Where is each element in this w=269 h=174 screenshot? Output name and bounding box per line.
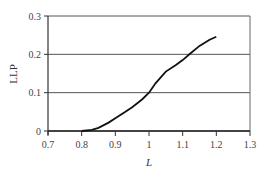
- x-tick-labels: 0.70.80.911.11.21.3: [42, 139, 257, 150]
- x-tick-label: 1: [147, 139, 152, 150]
- gridlines: [48, 16, 250, 131]
- y-tick-label: 0.1: [29, 87, 42, 98]
- llp-curve: [82, 37, 217, 131]
- y-tick-label: 0.3: [29, 11, 42, 22]
- x-tick-label: 1.3: [244, 139, 257, 150]
- y-tick-label: 0.2: [29, 49, 42, 60]
- y-axis-label: LLP: [7, 64, 19, 84]
- x-tick-label: 1.2: [210, 139, 223, 150]
- llp-chart: 0.70.80.911.11.21.3 00.10.20.3 L LLP: [0, 0, 269, 174]
- y-tick-labels: 00.10.20.3: [29, 11, 42, 137]
- x-axis-label: L: [145, 156, 152, 168]
- x-tick-label: 0.7: [42, 139, 55, 150]
- x-tick-label: 0.9: [109, 139, 122, 150]
- axes: [44, 16, 250, 136]
- x-tick-label: 1.1: [176, 139, 189, 150]
- x-tick-label: 0.8: [75, 139, 88, 150]
- y-tick-label: 0: [36, 126, 41, 137]
